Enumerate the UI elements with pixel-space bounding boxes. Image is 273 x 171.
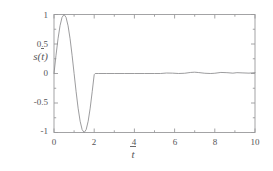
plot-area	[0, 0, 273, 171]
chart-figure: s(t) t 1 0.5 0 -0.5 -1 0 2 4 6 8 10	[0, 0, 273, 171]
data-series-line	[54, 15, 255, 133]
